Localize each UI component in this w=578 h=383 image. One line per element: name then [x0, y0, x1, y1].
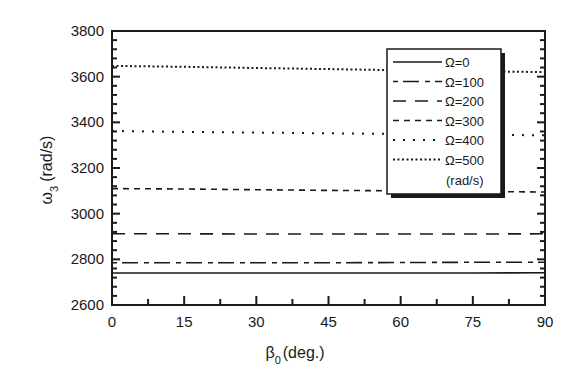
legend-label: Ω=0: [445, 55, 470, 70]
legend: Ω=0Ω=100Ω=200Ω=300Ω=400Ω=500 (rad/s): [387, 49, 505, 198]
legend-label: Ω=400: [445, 133, 484, 148]
x-tick-label: 60: [392, 313, 409, 330]
y-axis-tick-labels: 2600280030003200340036003800: [71, 22, 104, 313]
x-tick-label: 0: [108, 313, 116, 330]
x-tick-label: 75: [464, 313, 481, 330]
x-axis-title: β0(deg.): [265, 344, 324, 366]
legend-label: Ω=300: [445, 114, 484, 129]
legend-label: Ω=100: [445, 75, 484, 90]
y-tick-label: 3800: [71, 22, 104, 39]
x-tick-label: 15: [176, 313, 193, 330]
y-axis-title-sub: 3: [48, 186, 60, 192]
legend-unit: (rad/s): [446, 173, 484, 188]
x-axis-title-main: β: [265, 344, 274, 361]
y-tick-label: 3400: [71, 113, 104, 130]
x-axis-ticks: [112, 296, 545, 305]
x-axis-title-sub: 0: [275, 354, 281, 366]
series-line: [112, 262, 545, 263]
y-tick-label: 3600: [71, 68, 104, 85]
x-tick-label: 90: [537, 313, 554, 330]
legend-label: Ω=500: [445, 153, 484, 168]
y-axis-title-rest: (rad/s): [38, 136, 55, 182]
y-axis-title-main: ω: [38, 192, 55, 205]
y-tick-label: 2800: [71, 250, 104, 267]
y-tick-label: 3200: [71, 159, 104, 176]
y-axis-title: ω3(rad/s): [38, 136, 60, 205]
x-axis-title-rest: (deg.): [283, 344, 325, 361]
x-axis-tick-labels: 0153045607590: [108, 313, 554, 330]
legend-label: Ω=200: [445, 94, 484, 109]
x-tick-label: 30: [248, 313, 265, 330]
y-tick-label: 2600: [71, 296, 104, 313]
chart: 2600280030003200340036003800 01530456075…: [0, 0, 578, 383]
x-tick-label: 45: [320, 313, 337, 330]
y-tick-label: 3000: [71, 205, 104, 222]
